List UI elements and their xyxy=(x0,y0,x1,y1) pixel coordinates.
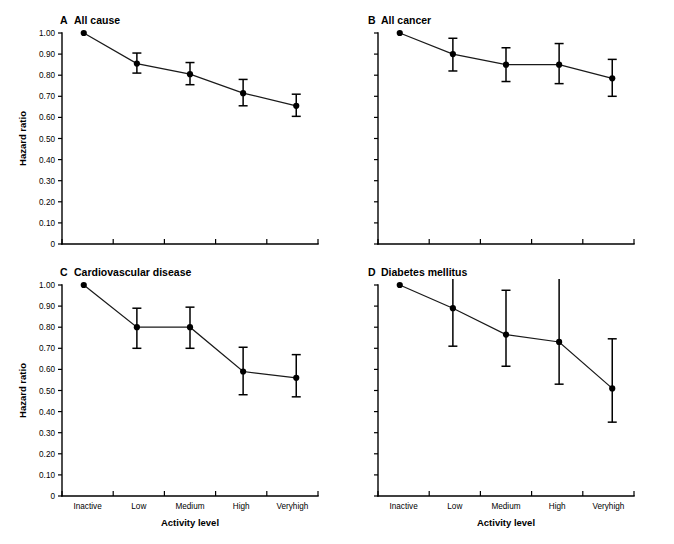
data-point-marker xyxy=(556,62,562,68)
panel-letter-c: C xyxy=(60,266,68,278)
x-category-label: Medium xyxy=(491,502,520,511)
data-point-marker xyxy=(240,90,246,96)
y-tick-label: 0.10 xyxy=(39,471,55,480)
panel-c: CCardiovascular disease1.000.900.800.700… xyxy=(17,266,318,528)
panel-title-b: All cancer xyxy=(381,14,431,26)
panel-letter-a: A xyxy=(60,14,68,26)
panel-a: AAll cause1.000.900.800.700.600.500.400.… xyxy=(17,14,318,249)
y-tick-label: 0.60 xyxy=(39,365,55,374)
y-tick-label: 0 xyxy=(50,240,55,249)
y-axis-title: Hazard ratio xyxy=(17,111,28,166)
x-category-label: Low xyxy=(447,502,462,511)
data-point-marker xyxy=(81,282,87,288)
y-tick-label: 0.50 xyxy=(39,135,55,144)
data-point-marker xyxy=(609,385,615,391)
panel-title-a: All cause xyxy=(74,14,120,26)
data-point-marker xyxy=(134,324,140,330)
panel-title-d: Diabetes mellitus xyxy=(381,266,468,278)
x-category-label: High xyxy=(549,502,566,511)
panel-d: DDiabetes mellitusInactiveLowMediumHighV… xyxy=(368,266,634,528)
data-point-marker xyxy=(503,62,509,68)
y-tick-label: 0 xyxy=(50,492,55,501)
y-tick-label: 0.10 xyxy=(39,219,55,228)
panel-letter-b: B xyxy=(368,14,376,26)
x-category-label: Inactive xyxy=(389,502,418,511)
data-point-marker xyxy=(450,305,456,311)
x-category-label: High xyxy=(233,502,250,511)
x-category-label: Low xyxy=(131,502,146,511)
y-tick-label: 0.40 xyxy=(39,408,55,417)
data-point-marker xyxy=(397,30,403,36)
y-tick-label: 0.30 xyxy=(39,429,55,438)
hazard-ratio-figure: AAll cause1.000.900.800.700.600.500.400.… xyxy=(0,0,674,544)
y-tick-label: 0.60 xyxy=(39,113,55,122)
data-point-marker xyxy=(556,339,562,345)
y-tick-label: 0.80 xyxy=(39,71,55,80)
x-axis-title: Activity level xyxy=(477,517,535,528)
y-tick-label: 0.20 xyxy=(39,450,55,459)
y-tick-label: 0.90 xyxy=(39,50,55,59)
figure-svg: AAll cause1.000.900.800.700.600.500.400.… xyxy=(0,0,674,544)
y-tick-label: 0.20 xyxy=(39,198,55,207)
data-point-marker xyxy=(503,331,509,337)
data-point-marker xyxy=(397,282,403,288)
y-tick-label: 0.70 xyxy=(39,344,55,353)
y-tick-label: 0.80 xyxy=(39,323,55,332)
y-tick-label: 1.00 xyxy=(39,29,55,38)
data-point-marker xyxy=(293,103,299,109)
y-tick-label: 1.00 xyxy=(39,281,55,290)
data-point-marker xyxy=(609,75,615,81)
y-axis-title: Hazard ratio xyxy=(17,363,28,418)
panel-b: BAll cancer xyxy=(368,14,634,244)
x-category-label: Veryhigh xyxy=(276,502,308,511)
x-category-label: Medium xyxy=(175,502,204,511)
x-category-label: Inactive xyxy=(73,502,102,511)
data-point-marker xyxy=(187,71,193,77)
panel-title-c: Cardiovascular disease xyxy=(74,266,191,278)
y-tick-label: 0.90 xyxy=(39,302,55,311)
y-tick-label: 0.40 xyxy=(39,156,55,165)
data-point-marker xyxy=(187,324,193,330)
data-point-marker xyxy=(81,30,87,36)
data-point-marker xyxy=(450,51,456,57)
x-category-label: Veryhigh xyxy=(592,502,624,511)
y-tick-label: 0.50 xyxy=(39,387,55,396)
y-tick-label: 0.30 xyxy=(39,177,55,186)
y-tick-label: 0.70 xyxy=(39,92,55,101)
data-point-marker xyxy=(134,60,140,66)
data-point-marker xyxy=(240,368,246,374)
panel-letter-d: D xyxy=(368,266,376,278)
data-point-marker xyxy=(293,375,299,381)
x-axis-title: Activity level xyxy=(161,517,219,528)
